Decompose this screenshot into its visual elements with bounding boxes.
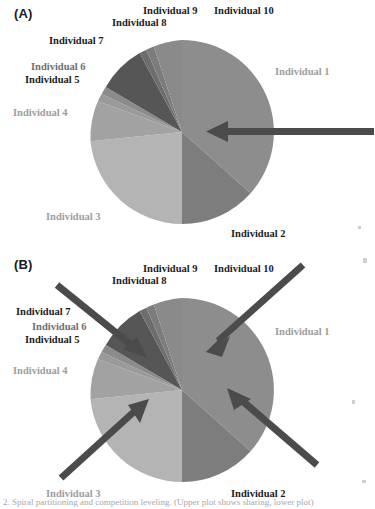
pie-slices-b bbox=[90, 298, 273, 482]
label-individual-1-a: Individual 1 bbox=[275, 66, 330, 77]
label-individual-5-a: Individual 5 bbox=[25, 74, 80, 85]
label-individual-8-a: Individual 8 bbox=[112, 17, 167, 28]
label-individual-1-b: Individual 1 bbox=[275, 326, 330, 337]
label-individual-7-a: Individual 7 bbox=[49, 35, 104, 46]
panel-b-pie-chart bbox=[0, 253, 375, 509]
label-individual-4-b: Individual 4 bbox=[13, 365, 68, 376]
label-individual-6-a: Individual 6 bbox=[31, 61, 86, 72]
panel-b: (B) bbox=[0, 253, 375, 509]
scan-artifact-4 bbox=[358, 226, 361, 229]
scan-artifact-3 bbox=[362, 480, 366, 483]
label-individual-5-b: Individual 5 bbox=[25, 334, 80, 345]
label-individual-6-b: Individual 6 bbox=[32, 321, 87, 332]
label-individual-7-b: Individual 7 bbox=[16, 306, 71, 317]
label-individual-3-a: Individual 3 bbox=[46, 211, 101, 222]
scan-artifact-1 bbox=[363, 258, 367, 263]
label-individual-2-a: Individual 2 bbox=[231, 228, 286, 239]
label-individual-10-a: Individual 10 bbox=[214, 5, 274, 16]
label-individual-9-a: Individual 9 bbox=[143, 5, 198, 16]
scan-artifact-2 bbox=[352, 400, 355, 404]
label-individual-9-b: Individual 9 bbox=[143, 263, 198, 274]
figure-caption: 2. Spiral partitioning and competition l… bbox=[3, 497, 375, 507]
label-individual-4-a: Individual 4 bbox=[13, 107, 68, 118]
label-individual-8-b: Individual 8 bbox=[112, 275, 167, 286]
pie-slice-individual-3[interactable] bbox=[91, 132, 183, 224]
label-individual-10-b: Individual 10 bbox=[214, 263, 274, 274]
panel-a: (A) Individual 10 Individual 9 Individua… bbox=[0, 0, 375, 253]
